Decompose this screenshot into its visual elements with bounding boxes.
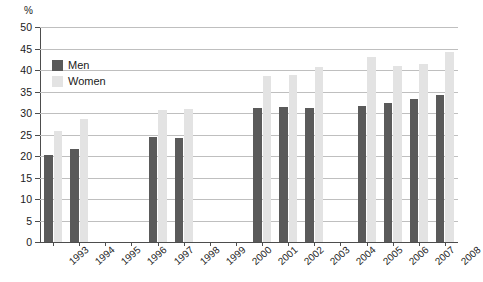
- legend-swatch-women-icon: [52, 76, 63, 87]
- bar-women-1994: [80, 119, 89, 242]
- x-axis-tick-mark: [79, 242, 80, 246]
- bar-women-2006: [393, 66, 402, 242]
- y-axis-tick-label: 50: [6, 22, 32, 32]
- y-axis-unit-label: %: [24, 5, 33, 16]
- bar-men-2001: [253, 108, 262, 242]
- x-axis-tick-label: 1995: [119, 244, 143, 267]
- x-axis-tick-label: 1998: [197, 244, 221, 267]
- x-axis-tick-mark: [393, 242, 394, 246]
- chart-legend: Men Women: [52, 60, 106, 92]
- bar-men-2005: [358, 106, 367, 242]
- bar-women-2002: [289, 75, 298, 242]
- x-axis-tick-label: 2007: [433, 244, 457, 267]
- x-axis-tick-label: 2003: [328, 244, 352, 267]
- x-axis-tick-label: 2008: [459, 244, 483, 267]
- x-axis-tick-mark: [419, 242, 420, 246]
- x-axis-tick-mark: [184, 242, 185, 246]
- y-axis-tick-label: 40: [6, 65, 32, 75]
- legend-label-women: Women: [68, 76, 106, 87]
- bar-men-2006: [384, 103, 393, 242]
- bar-women-2007: [419, 64, 428, 242]
- x-axis-tick-mark: [53, 242, 54, 246]
- x-axis-labels: 1993199419951996199719981999200020012002…: [40, 244, 458, 282]
- legend-swatch-men-icon: [52, 60, 63, 71]
- y-axis-tick-label: 25: [6, 130, 32, 140]
- bar-women-2008: [445, 52, 454, 242]
- x-axis-tick-mark: [105, 242, 106, 246]
- bar-men-2002: [279, 107, 288, 242]
- bar-women-2003: [315, 67, 324, 242]
- bar-women-1997: [158, 110, 167, 242]
- x-axis-tick-mark: [367, 242, 368, 246]
- x-axis-tick-mark: [158, 242, 159, 246]
- bar-men-2008: [436, 95, 445, 242]
- x-axis-tick-label: 2002: [302, 244, 326, 267]
- x-axis-tick-mark: [210, 242, 211, 246]
- bar-men-2003: [305, 108, 314, 242]
- x-axis-tick-label: 2005: [380, 244, 404, 267]
- y-axis-tick-label: 20: [6, 151, 32, 161]
- y-axis-tick-label: 30: [6, 108, 32, 118]
- x-axis-tick-mark: [340, 242, 341, 246]
- x-axis-tick-label: 1997: [171, 244, 195, 267]
- gridline: [40, 242, 458, 243]
- x-axis-tick-label: 1996: [145, 244, 169, 267]
- y-axis-tick-label: 5: [6, 216, 32, 226]
- x-axis-tick-mark: [314, 242, 315, 246]
- x-axis-tick-label: 1994: [93, 244, 117, 267]
- y-axis-tick-label: 15: [6, 173, 32, 183]
- bar-men-1998: [175, 138, 184, 242]
- x-axis-tick-mark: [236, 242, 237, 246]
- x-axis-tick-mark: [131, 242, 132, 246]
- legend-item-women: Women: [52, 76, 106, 87]
- x-axis-tick-label: 1999: [224, 244, 248, 267]
- y-axis-tick-label: 0: [6, 237, 32, 247]
- x-axis-tick-label: 2004: [354, 244, 378, 267]
- y-axis-tick-label: 10: [6, 194, 32, 204]
- y-axis-tick-label: 35: [6, 87, 32, 97]
- x-axis-tick-mark: [288, 242, 289, 246]
- bar-women-1998: [184, 109, 193, 242]
- bar-women-1993: [54, 131, 63, 242]
- x-axis-tick-mark: [262, 242, 263, 246]
- bar-men-2007: [410, 99, 419, 242]
- bar-men-1997: [149, 137, 158, 242]
- bar-women-2005: [367, 57, 376, 242]
- bar-women-2001: [263, 76, 272, 242]
- bar-men-1994: [70, 149, 79, 242]
- x-axis-tick-label: 2000: [250, 244, 274, 267]
- x-axis-tick-label: 1993: [67, 244, 91, 267]
- y-axis-tick-label: 45: [6, 44, 32, 54]
- x-axis-tick-mark: [445, 242, 446, 246]
- bar-men-1993: [44, 155, 53, 242]
- x-axis-tick-label: 2006: [406, 244, 430, 267]
- x-axis-tick-label: 2001: [276, 244, 300, 267]
- legend-item-men: Men: [52, 60, 106, 71]
- legend-label-men: Men: [68, 60, 89, 71]
